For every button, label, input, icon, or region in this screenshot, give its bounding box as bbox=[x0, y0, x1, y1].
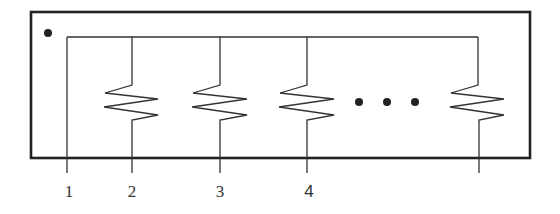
pin1-marker-dot bbox=[44, 29, 52, 37]
resistor-pin-n bbox=[450, 37, 504, 173]
pin-label-4: 4 bbox=[304, 182, 313, 201]
pin-label-3: 3 bbox=[216, 182, 225, 201]
package-outline bbox=[31, 12, 530, 158]
resistor-pin-2 bbox=[104, 37, 158, 173]
ellipsis-dot bbox=[355, 98, 363, 106]
ellipsis-dot bbox=[383, 98, 391, 106]
ellipsis-dots bbox=[355, 98, 419, 106]
pin-label-1: 1 bbox=[65, 182, 74, 201]
pin-label-2: 2 bbox=[128, 182, 137, 201]
resistor-pin-4 bbox=[279, 37, 334, 173]
resistor-pin-3 bbox=[192, 37, 247, 173]
resistor-network-diagram: 1 2 3 4 bbox=[0, 0, 560, 214]
ellipsis-dot bbox=[411, 98, 419, 106]
